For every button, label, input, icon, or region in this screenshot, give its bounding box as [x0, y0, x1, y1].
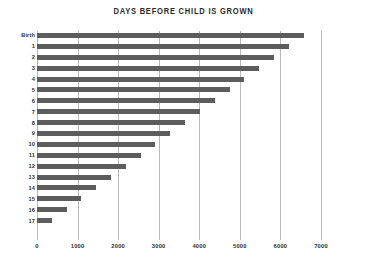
- bar: [37, 44, 289, 49]
- y-axis-label: 14: [1, 185, 35, 191]
- bar-row: [37, 194, 321, 205]
- bar: [37, 218, 52, 223]
- bar: [37, 164, 126, 169]
- y-axis-label: 12: [1, 163, 35, 169]
- y-axis-label: 17: [1, 218, 35, 224]
- y-axis-label: Birth: [1, 32, 35, 38]
- y-axis-label: 11: [1, 152, 35, 158]
- bar: [37, 185, 96, 190]
- y-axis-label: 8: [1, 120, 35, 126]
- bar: [37, 66, 259, 71]
- plot-area: [37, 31, 321, 227]
- chart-title: DAYS BEFORE CHILD IS GROWN: [15, 7, 353, 16]
- bar-row: [37, 216, 321, 227]
- bar: [37, 131, 170, 136]
- x-axis-tick: [321, 227, 322, 240]
- bar-row: [37, 118, 321, 129]
- bar: [37, 87, 230, 92]
- y-axis-label: 16: [1, 207, 35, 213]
- y-axis-label: 10: [1, 141, 35, 147]
- y-axis-label: 3: [1, 65, 35, 71]
- x-axis-tick-label: 6000: [260, 243, 300, 249]
- y-axis-label: 7: [1, 109, 35, 115]
- x-axis-tick-label: 1000: [58, 243, 98, 249]
- bar: [37, 55, 274, 60]
- y-axis-label: 15: [1, 196, 35, 202]
- bar-row: [37, 31, 321, 42]
- y-axis-label: 5: [1, 87, 35, 93]
- x-axis-tick: [159, 227, 160, 240]
- bar-row: [37, 53, 321, 64]
- bar-row: [37, 85, 321, 96]
- x-axis-tick-label: 3000: [139, 243, 179, 249]
- bar-row: [37, 205, 321, 216]
- bar-row: [37, 140, 321, 151]
- bar: [37, 120, 185, 125]
- bar-row: [37, 129, 321, 140]
- x-axis-tick-label: 7000: [301, 243, 341, 249]
- bar-row: [37, 75, 321, 86]
- y-axis-label: 2: [1, 54, 35, 60]
- chart-container: DAYS BEFORE CHILD IS GROWN Birth12345678…: [0, 0, 367, 263]
- x-axis-tick: [78, 227, 79, 240]
- x-axis-tick-label: 4000: [179, 243, 219, 249]
- bar: [37, 196, 81, 201]
- bar-row: [37, 64, 321, 75]
- bar: [37, 109, 200, 114]
- x-axis-tick: [37, 227, 38, 240]
- bar-row: [37, 162, 321, 173]
- bar-row: [37, 173, 321, 184]
- y-axis-label: 1: [1, 43, 35, 49]
- y-axis-category-labels: Birth1234567891011121314151617: [0, 0, 35, 263]
- x-gridline: [321, 31, 322, 227]
- bar: [37, 33, 304, 38]
- bar-row: [37, 42, 321, 53]
- x-axis-tick-label: 2000: [98, 243, 138, 249]
- bar-row: [37, 96, 321, 107]
- bar: [37, 207, 67, 212]
- bar: [37, 175, 111, 180]
- bar: [37, 98, 215, 103]
- x-axis-tick: [280, 227, 281, 240]
- x-axis-tick-label: 0: [17, 243, 57, 249]
- y-axis-label: 13: [1, 174, 35, 180]
- x-axis-tick: [199, 227, 200, 240]
- x-axis-tick-label: 5000: [220, 243, 260, 249]
- bar-row: [37, 151, 321, 162]
- bar: [37, 77, 244, 82]
- bar-row: [37, 107, 321, 118]
- bar: [37, 142, 155, 147]
- y-axis-label: 9: [1, 130, 35, 136]
- bar-row: [37, 183, 321, 194]
- x-axis-tick: [240, 227, 241, 240]
- y-axis-label: 6: [1, 98, 35, 104]
- x-axis-tick: [118, 227, 119, 240]
- y-axis-label: 4: [1, 76, 35, 82]
- bar: [37, 153, 141, 158]
